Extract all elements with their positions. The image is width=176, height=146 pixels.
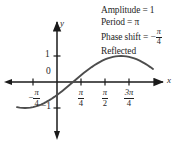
y-axis-bottom-arrowhead — [54, 131, 60, 140]
annotation-period-text: Period = π — [101, 17, 139, 27]
pi-2-fraction: π2 — [102, 88, 108, 108]
trig-graph-figure: Amplitude = 1 Period = π Phase shift = −… — [0, 0, 176, 146]
annotation-amplitude: Amplitude = 1 — [101, 5, 176, 17]
three-pi-4-denominator: 4 — [124, 98, 135, 109]
annotation-amplitude-text: Amplitude = 1 — [101, 5, 154, 15]
annotation-phase-shift-text: Phase shift = − — [101, 32, 156, 42]
pi-4-fraction: π4 — [78, 88, 84, 108]
x-tick-label-neg-pi-4: −π4 — [21, 88, 47, 108]
pi-2-numerator: π — [102, 88, 108, 98]
x-axis-left-arrowhead — [4, 79, 12, 85]
annotation-period: Period = π — [101, 17, 176, 29]
y-axis-label: y — [60, 18, 64, 28]
three-pi-4-numerator: 3π — [124, 88, 135, 98]
x-tick-label-pi-4: π4 — [71, 88, 91, 108]
phase-shift-denominator: 4 — [156, 37, 162, 47]
annotation-phase-shift-fraction: π4 — [156, 28, 162, 46]
neg-pi-4-fraction: π4 — [33, 88, 39, 108]
x-tick-label-pi-2: π2 — [95, 88, 115, 108]
pi-4-numerator: π — [78, 88, 84, 98]
pi-2-denominator: 2 — [102, 98, 108, 109]
x-axis-label: x — [167, 75, 171, 85]
annotation-phase-shift: Phase shift = −π4 — [101, 28, 176, 46]
annotation-reflected-text: Reflected — [101, 46, 136, 56]
three-pi-4-fraction: 3π4 — [124, 88, 135, 108]
x-tick-label-3pi-4: 3π4 — [118, 88, 140, 108]
y-tick-label-one: 1 — [45, 49, 50, 59]
annotation-block: Amplitude = 1 Period = π Phase shift = −… — [101, 5, 176, 58]
neg-pi-4-denominator: 4 — [33, 98, 39, 109]
annotation-reflected: Reflected — [101, 46, 176, 58]
neg-pi-4-numerator: π — [33, 88, 39, 98]
phase-shift-numerator: π — [156, 28, 162, 37]
origin-label: 0 — [46, 66, 51, 76]
pi-4-denominator: 4 — [78, 98, 84, 109]
